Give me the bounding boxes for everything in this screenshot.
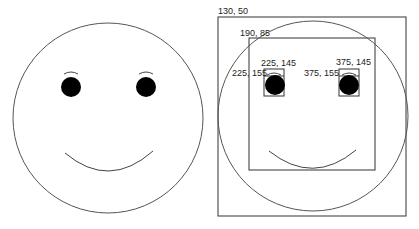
left-face-left-brow bbox=[64, 72, 78, 74]
right-annotated-face: 130, 50 190, 85 225, 145 225, 155 375, 1… bbox=[218, 6, 408, 216]
right-face-left-brow bbox=[267, 73, 281, 75]
diagram-canvas: 130, 50 190, 85 225, 145 225, 155 375, 1… bbox=[0, 0, 419, 229]
right-face-left-eye bbox=[265, 75, 285, 95]
right-face-right-brow bbox=[342, 73, 356, 75]
right-eye-label: 375, 155 bbox=[304, 68, 339, 78]
left-eye-label: 225, 155 bbox=[232, 68, 267, 78]
left-smiley-face bbox=[13, 23, 203, 213]
left-face-left-eye bbox=[61, 77, 81, 97]
right-face-outline bbox=[218, 21, 408, 211]
left-face-right-eye bbox=[136, 77, 156, 97]
right-brow-label: 375, 145 bbox=[336, 57, 371, 67]
left-face-outline bbox=[13, 23, 203, 213]
left-brow-label: 225, 145 bbox=[261, 58, 296, 68]
inner-box-label: 190, 85 bbox=[240, 28, 270, 38]
right-face-mouth bbox=[269, 150, 356, 168]
right-face-right-eye bbox=[339, 75, 359, 95]
left-face-mouth bbox=[65, 151, 153, 171]
outer-box-label: 130, 50 bbox=[218, 6, 248, 16]
left-face-right-brow bbox=[139, 72, 153, 74]
